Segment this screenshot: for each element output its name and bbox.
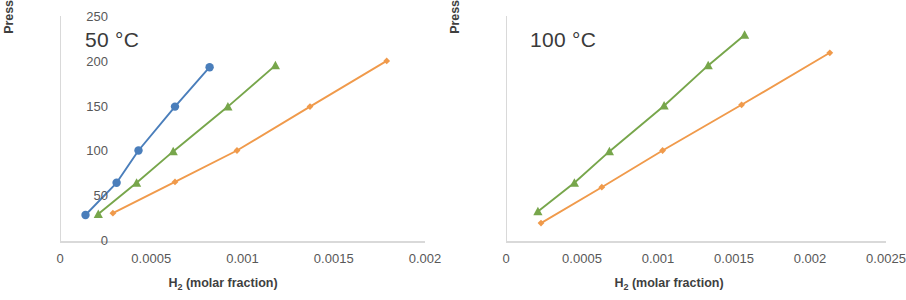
y-tick-label: 200 — [62, 55, 108, 68]
x-tick-label: 0.0015 — [714, 252, 754, 265]
data-point-orange — [172, 179, 179, 186]
x-tick-label: 0.002 — [794, 252, 827, 265]
panel-title-50c: 50 °C — [85, 28, 139, 52]
x-tick-label: 0.0005 — [131, 252, 171, 265]
x-tick-label: 0 — [56, 252, 63, 265]
x-tick-label: 0 — [502, 252, 509, 265]
x-tick-label: 0.002 — [409, 252, 442, 265]
series-line-green — [538, 35, 745, 212]
x-axis-ticks-50c: 00.00050.0010.00150.002 — [0, 252, 446, 272]
y-tick-label: 50 — [62, 189, 108, 202]
chart-panel-100c: Pressure (bar) 050100150200250 100 °C 00… — [446, 0, 892, 300]
series-line-green — [98, 65, 275, 214]
panel-title-100c: 100 °C — [530, 28, 596, 52]
x-tick-label: 0.001 — [642, 252, 675, 265]
x-axis-label-rest: (molar fraction) — [628, 276, 723, 290]
data-point-blue — [81, 211, 89, 219]
y-tick-label: 0 — [62, 234, 108, 247]
x-tick-label: 0.001 — [226, 252, 259, 265]
data-point-blue — [134, 146, 142, 154]
y-tick-label: 250 — [62, 10, 108, 23]
data-point-blue — [112, 179, 120, 187]
series-line-orange — [113, 61, 387, 213]
series-line-orange — [541, 53, 830, 223]
x-axis-label-100c: H2 (molar fraction) — [446, 276, 892, 292]
x-tick-label: 0.0005 — [562, 252, 602, 265]
x-axis-label-50c: H2 (molar fraction) — [0, 276, 446, 292]
y-tick-label: 150 — [62, 100, 108, 113]
data-point-orange — [110, 210, 117, 217]
x-axis-label-rest: (molar fraction) — [182, 276, 277, 290]
data-point-blue — [171, 102, 179, 110]
x-axis-ticks-100c: 00.00050.0010.00150.0020.0025 — [446, 252, 892, 272]
x-tick-label: 0.0025 — [866, 252, 906, 265]
x-tick-label: 0.0015 — [314, 252, 354, 265]
y-tick-label: 100 — [62, 144, 108, 157]
data-point-green — [271, 61, 280, 70]
data-point-blue — [205, 63, 213, 71]
data-point-green — [740, 30, 749, 39]
